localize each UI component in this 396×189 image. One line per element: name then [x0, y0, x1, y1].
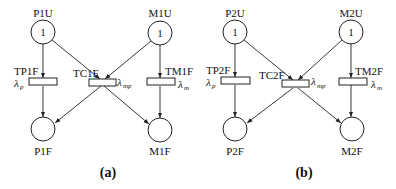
place-p1u-token: 1	[40, 26, 46, 38]
panel-a: 1 P1U 1 M1U P1F M1F TP1F λ p TC1F λ mp T…	[13, 7, 193, 181]
petri-net-figure: 1 P1U 1 M1U P1F M1F TP1F λ p TC1F λ mp T…	[0, 0, 396, 189]
place-m1u-label: M1U	[148, 7, 171, 19]
place-p1f-label: P1F	[34, 145, 52, 157]
transition-tm2f-rate-sub: m	[377, 84, 382, 92]
place-m1f	[148, 118, 172, 142]
transition-tc2f	[282, 80, 309, 87]
arc-tc1f-m1f	[104, 86, 149, 124]
transition-tp1f	[29, 78, 57, 85]
transition-tc1f-rate: λ	[116, 76, 122, 88]
transition-tc1f	[89, 79, 116, 86]
transition-tm1f-rate: λ	[177, 78, 183, 90]
transition-tp2f-rate-sub: p	[211, 82, 216, 90]
transition-tp2f	[221, 77, 250, 84]
panel-b: 1 P2U 1 M2U P2F M2F TP2F λ p TC2F λ mp T…	[205, 7, 383, 181]
arc-tc1f-p1f	[55, 86, 101, 123]
arc-tc2f-p2f	[247, 88, 293, 123]
transition-tp2f-rate: λ	[205, 76, 211, 88]
place-p2f-label: P2F	[226, 145, 244, 157]
panel-a-caption: (a)	[100, 165, 117, 181]
arc-m1u-tc1f	[105, 41, 151, 79]
transition-tm1f-label: TM1F	[165, 65, 193, 77]
transition-tm1f-rate-sub: m	[184, 84, 189, 92]
transition-tc2f-label: TC2F	[259, 69, 285, 81]
transition-tc2f-rate: λ	[310, 75, 316, 87]
place-p2u-token: 1	[232, 26, 238, 38]
transition-tm2f	[339, 78, 367, 85]
place-p1u-label: P1U	[33, 7, 53, 19]
transition-tp1f-rate: λ	[13, 77, 19, 89]
place-m2f-label: M2F	[341, 145, 362, 157]
place-m2u-label: M2U	[339, 7, 362, 19]
transition-tp1f-label: TP1F	[14, 65, 38, 77]
place-p2u-label: P2U	[225, 7, 245, 19]
transition-tc1f-label: TC1F	[73, 67, 99, 79]
transition-tp1f-rate-sub: p	[19, 83, 24, 91]
transition-tc2f-rate-sub: mp	[317, 82, 326, 90]
transition-tm2f-rate: λ	[370, 78, 376, 90]
panel-b-caption: (b)	[295, 165, 312, 181]
transition-tc1f-rate-sub: mp	[123, 82, 132, 90]
arc-tc2f-m2f	[298, 88, 341, 123]
transition-tm2f-label: TM2F	[355, 65, 383, 77]
place-m1u-token: 1	[157, 27, 163, 39]
transition-tm1f	[147, 78, 175, 85]
place-m2f	[340, 117, 364, 141]
arc-m2u-tc2f	[298, 40, 342, 80]
place-p2f	[223, 117, 247, 141]
transition-tp2f-label: TP2F	[206, 64, 230, 76]
place-p1f	[31, 117, 55, 141]
place-m1f-label: M1F	[149, 145, 170, 157]
place-m2u-token: 1	[348, 26, 354, 38]
